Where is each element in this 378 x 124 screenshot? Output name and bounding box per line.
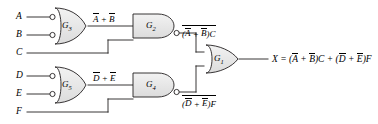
- gate-label-g5-subscript: 5: [69, 84, 72, 91]
- wire-label-g2-output: (A + B)C: [182, 25, 216, 38]
- wire-label-g3-output: A + B: [93, 13, 115, 24]
- output-equation-plus3: +: [346, 54, 357, 64]
- gate-label-g1: G1: [214, 54, 224, 65]
- gate-g5-input-bubble-e: [50, 91, 55, 96]
- gate-label-g3-subscript: 3: [69, 25, 72, 32]
- g2-out-plus: +: [191, 28, 202, 38]
- gate-g3-input-bubble-b: [50, 32, 55, 37]
- output-equation-equals: = (: [278, 54, 292, 64]
- g4-out-plus: +: [192, 98, 203, 108]
- input-label-f: F: [16, 107, 22, 117]
- g5-out-plus: +: [100, 73, 111, 83]
- gate-g2: [133, 14, 179, 38]
- g5-out-term-e: E: [110, 72, 116, 83]
- gate-label-g4-subscript: 4: [153, 84, 156, 91]
- gate-g4-output-bubble: [174, 89, 179, 94]
- g3-out-plus: +: [99, 14, 110, 24]
- input-label-a: A: [16, 12, 22, 22]
- gate-g4: [133, 73, 179, 97]
- g3-out-term-b: B: [109, 13, 115, 24]
- g4-out-overbar-group: (D + E)F: [182, 95, 216, 108]
- gate-g2-output-bubble: [174, 30, 179, 35]
- gate-label-g1-subscript: 1: [221, 58, 224, 65]
- gate-g3-input-bubble-a: [50, 14, 55, 19]
- gate-label-g4: G4: [146, 80, 156, 91]
- g2-out-term-c: C: [210, 28, 216, 38]
- g2-out-overbar-group: (A + B)C: [182, 25, 216, 38]
- wire-label-g5-output: D + E: [93, 72, 116, 83]
- input-label-c: C: [16, 48, 22, 58]
- output-equation: X = (A + B)C + (D + E)F: [272, 53, 372, 64]
- logic-circuit-diagram: A B C D E F G3 G2 G5 G4 G1 A + B D + E (…: [0, 0, 378, 124]
- output-equation-plus1: +: [298, 54, 309, 64]
- gate-label-g5: G5: [62, 80, 72, 91]
- output-equation-term-f: F: [366, 54, 372, 64]
- input-label-b: B: [16, 30, 22, 40]
- gate-label-g2: G2: [146, 21, 156, 32]
- gate-label-g3: G3: [62, 21, 72, 32]
- gate-label-g2-subscript: 2: [153, 25, 156, 32]
- g4-out-term-f: F: [211, 98, 217, 108]
- input-label-e: E: [16, 89, 22, 99]
- input-label-d: D: [16, 71, 23, 81]
- gate-g5-input-bubble-d: [50, 73, 55, 78]
- wire-label-g4-output: (D + E)F: [182, 95, 216, 108]
- output-equation-term-d: D: [339, 53, 346, 64]
- output-equation-plus2: + (: [324, 54, 338, 64]
